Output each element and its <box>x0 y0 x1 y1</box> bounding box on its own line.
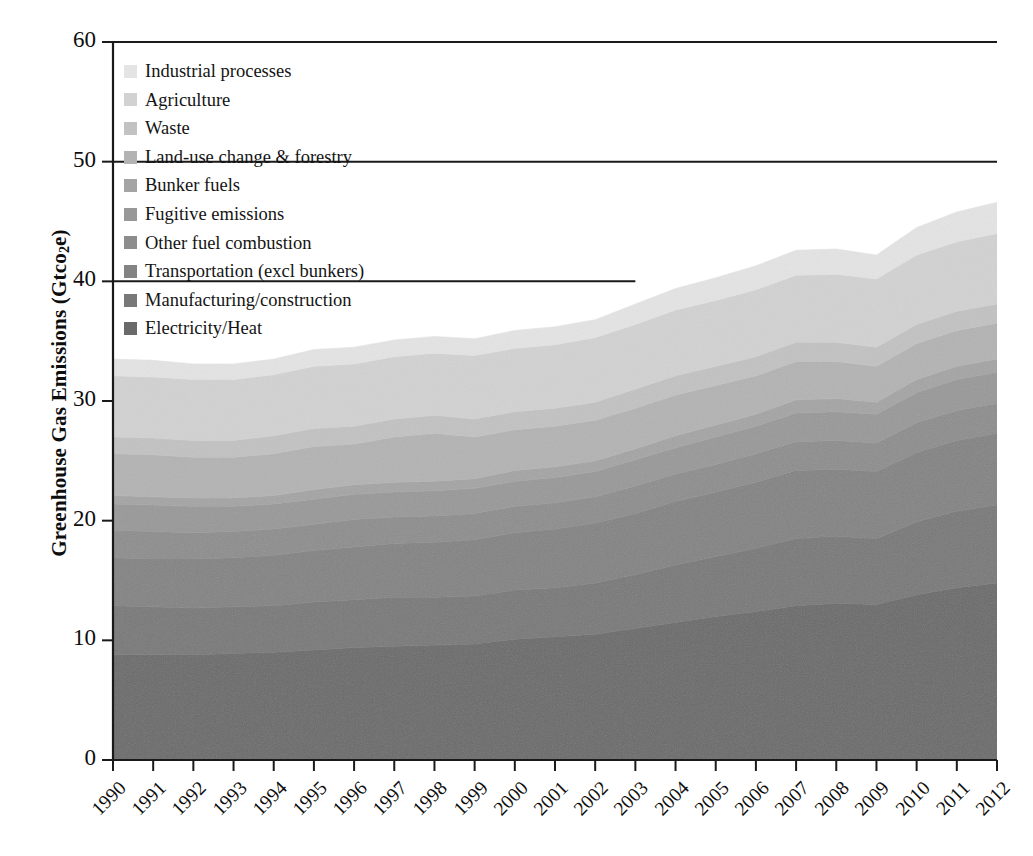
legend-item-other-fuel-combustion[interactable]: Other fuel combustion <box>124 229 444 258</box>
y-tick-label-50: 50 <box>36 147 96 173</box>
legend-item-label: Other fuel combustion <box>145 234 311 253</box>
legend-item-label: Transportation (excl bunkers) <box>145 262 364 281</box>
legend-item-transportation-excl-bunkers[interactable]: Transportation (excl bunkers) <box>124 257 444 286</box>
legend-swatch-icon <box>124 93 137 106</box>
figure-container: Greenhouse Gas Emissions (Gtco2e) Indust… <box>0 0 1033 856</box>
legend-item-label: Bunker fuels <box>145 176 240 195</box>
legend-swatch-icon <box>124 236 137 249</box>
legend-item-label: Electricity/Heat <box>145 319 262 338</box>
legend-item-agriculture[interactable]: Agriculture <box>124 86 444 115</box>
legend-swatch-icon <box>124 265 137 278</box>
legend-item-waste[interactable]: Waste <box>124 114 444 143</box>
y-tick-label-40: 40 <box>36 266 96 292</box>
legend-item-bunker-fuels[interactable]: Bunker fuels <box>124 171 444 200</box>
legend-swatch-icon <box>124 122 137 135</box>
y-tick-label-20: 20 <box>36 506 96 532</box>
legend-swatch-icon <box>124 151 137 164</box>
y-tick-label-60: 60 <box>36 27 96 53</box>
legend-item-electricity-heat[interactable]: Electricity/Heat <box>124 314 444 343</box>
legend-swatch-icon <box>124 65 137 78</box>
legend-swatch-icon <box>124 208 137 221</box>
legend-item-label: Fugitive emissions <box>145 205 284 224</box>
y-tick-label-30: 30 <box>36 386 96 412</box>
legend-item-manufacturing-construction[interactable]: Manufacturing/construction <box>124 286 444 315</box>
legend-item-fugitive-emissions[interactable]: Fugitive emissions <box>124 200 444 229</box>
y-tick-label-10: 10 <box>36 625 96 651</box>
legend-item-label: Manufacturing/construction <box>145 291 352 310</box>
legend-swatch-icon <box>124 322 137 335</box>
legend-swatch-icon <box>124 179 137 192</box>
legend-item-industrial-processes[interactable]: Industrial processes <box>124 57 444 86</box>
y-tick-label-0: 0 <box>36 745 96 771</box>
legend-item-land-use-change-forestry[interactable]: Land-use change & forestry <box>124 143 444 172</box>
chart-legend: Industrial processesAgricultureWasteLand… <box>124 57 444 343</box>
legend-item-label: Industrial processes <box>145 62 291 81</box>
legend-item-label: Land-use change & forestry <box>145 148 352 167</box>
legend-item-label: Agriculture <box>145 91 230 110</box>
legend-swatch-icon <box>124 294 137 307</box>
legend-item-label: Waste <box>145 119 190 138</box>
